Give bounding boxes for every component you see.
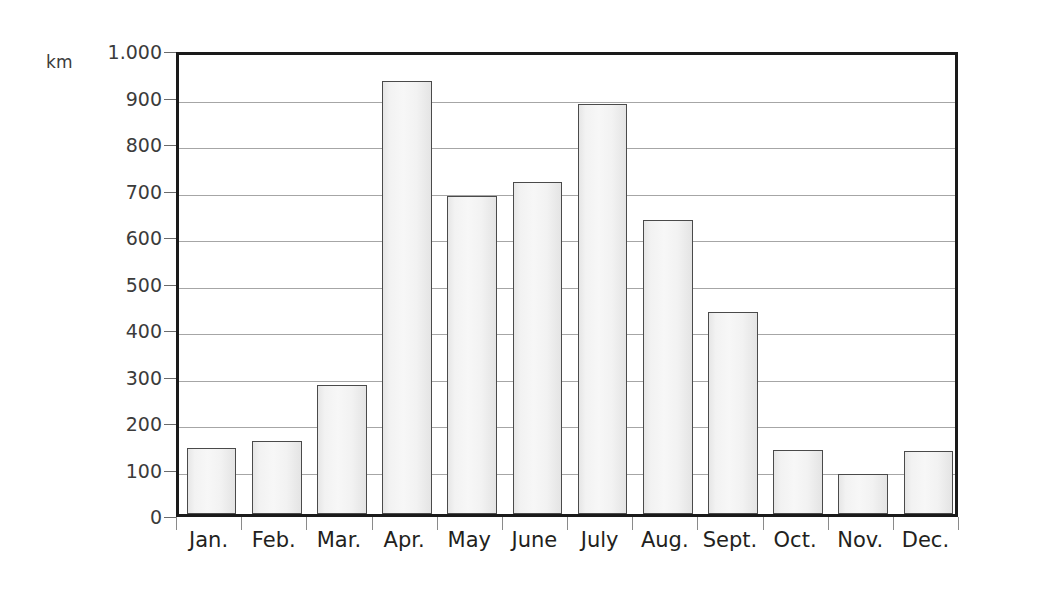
y-axis-tick-labels: 01002003004005006007008009001.000 [84, 52, 162, 517]
bar-jan[interactable] [187, 448, 237, 514]
x-axis-tick-labels: Jan.Feb.Mar.Apr.MayJuneJulyAug.Sept.Oct.… [176, 528, 958, 560]
y-tick-label-400: 400 [84, 320, 162, 342]
y-tick-mark-200 [164, 424, 176, 425]
y-tick-label-800: 800 [84, 134, 162, 156]
gridline-300 [179, 381, 955, 382]
gridline-800 [179, 148, 955, 149]
y-tick-mark-100 [164, 471, 176, 472]
x-tick-label-sept: Sept. [697, 528, 762, 552]
bar-mar[interactable] [317, 385, 367, 514]
plot-inner [179, 55, 955, 514]
y-tick-label-1000: 1.000 [84, 41, 162, 63]
bar-may[interactable] [447, 196, 497, 514]
gridline-900 [179, 102, 955, 103]
y-tick-mark-300 [164, 378, 176, 379]
gridline-500 [179, 288, 955, 289]
x-tick-label-dec: Dec. [893, 528, 958, 552]
y-tick-mark-800 [164, 145, 176, 146]
bar-june[interactable] [513, 182, 563, 514]
bar-oct[interactable] [773, 450, 823, 514]
y-tick-label-200: 200 [84, 413, 162, 435]
y-tick-label-300: 300 [84, 367, 162, 389]
bar-aug[interactable] [643, 220, 693, 514]
bar-feb[interactable] [252, 441, 302, 514]
y-tick-label-0: 0 [84, 506, 162, 528]
x-tick-label-nov: Nov. [828, 528, 893, 552]
y-tick-mark-1000 [164, 52, 176, 53]
bar-chart: km 01002003004005006007008009001.000 Jan… [0, 0, 1043, 590]
y-tick-mark-600 [164, 238, 176, 239]
x-tick-label-oct: Oct. [763, 528, 828, 552]
x-tick-label-june: June [502, 528, 567, 552]
bar-dec[interactable] [904, 451, 954, 514]
y-tick-mark-700 [164, 192, 176, 193]
y-tick-mark-900 [164, 99, 176, 100]
x-tick-label-mar: Mar. [306, 528, 371, 552]
y-tick-label-600: 600 [84, 227, 162, 249]
y-tick-mark-500 [164, 285, 176, 286]
plot-area [176, 52, 958, 517]
bar-apr[interactable] [382, 81, 432, 514]
gridline-600 [179, 241, 955, 242]
y-tick-label-500: 500 [84, 274, 162, 296]
y-tick-label-700: 700 [84, 181, 162, 203]
x-tick-label-may: May [437, 528, 502, 552]
y-tick-label-100: 100 [84, 460, 162, 482]
y-axis-unit-label: km [46, 52, 73, 72]
x-tick-label-aug: Aug. [632, 528, 697, 552]
x-tick-label-jan: Jan. [176, 528, 241, 552]
bar-nov[interactable] [838, 474, 888, 514]
gridline-700 [179, 195, 955, 196]
x-tick-label-july: July [567, 528, 632, 552]
x-tick-label-feb: Feb. [241, 528, 306, 552]
x-tick-label-apr: Apr. [372, 528, 437, 552]
gridline-400 [179, 334, 955, 335]
x-tick-mark-12 [958, 517, 959, 530]
bar-sept[interactable] [708, 312, 758, 514]
y-tick-label-900: 900 [84, 88, 162, 110]
y-tick-mark-0 [164, 517, 176, 518]
bar-july[interactable] [578, 104, 628, 514]
gridline-200 [179, 427, 955, 428]
y-tick-mark-400 [164, 331, 176, 332]
